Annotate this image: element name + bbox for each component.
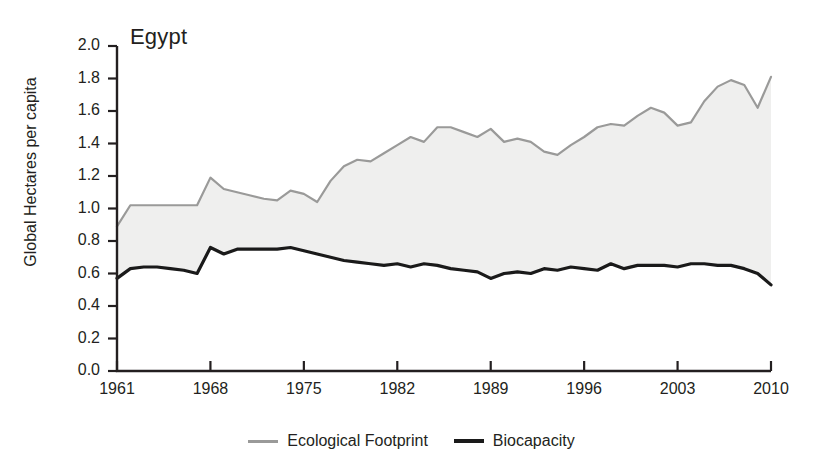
y-axis-tick-label: 1.8 <box>60 69 100 87</box>
x-axis-tick-label: 2003 <box>648 380 708 398</box>
y-axis-label-container: Global Hectares per capita <box>19 7 43 337</box>
y-axis-tick-label: 0.4 <box>60 296 100 314</box>
legend-label-ecological-footprint: Ecological Footprint <box>287 432 428 450</box>
y-axis-tick-label: 1.4 <box>60 134 100 152</box>
legend-label-biocapacity: Biocapacity <box>493 432 575 450</box>
plot-area <box>0 0 823 475</box>
x-axis-tick-label: 1982 <box>367 380 427 398</box>
x-axis-tick-label: 1968 <box>180 380 240 398</box>
x-axis-tick-label: 2010 <box>741 380 801 398</box>
y-axis-tick-label: 1.2 <box>60 166 100 184</box>
y-axis-tick-label: 0.6 <box>60 264 100 282</box>
chart-figure: Global Hectares per capita Egypt 0.00.20… <box>0 0 823 475</box>
chart-legend: Ecological Footprint Biocapacity <box>0 432 823 450</box>
y-axis-tick-label: 0.8 <box>60 231 100 249</box>
legend-line-icon-ecological-footprint <box>248 440 278 443</box>
x-axis-tick-label: 1961 <box>87 380 147 398</box>
y-axis-tick-label: 0.0 <box>60 361 100 379</box>
x-axis-tick-label: 1996 <box>554 380 614 398</box>
y-axis-label: Global Hectares per capita <box>22 77 40 266</box>
y-axis-tick-label: 1.0 <box>60 199 100 217</box>
legend-item-biocapacity: Biocapacity <box>454 432 575 450</box>
chart-title: Egypt <box>130 24 187 50</box>
y-axis-tick-label: 1.6 <box>60 101 100 119</box>
legend-item-ecological-footprint: Ecological Footprint <box>248 432 428 450</box>
x-axis-tick-label: 1989 <box>461 380 521 398</box>
y-axis-tick-label: 2.0 <box>60 36 100 54</box>
legend-line-icon-biocapacity <box>454 439 484 443</box>
x-axis-tick-label: 1975 <box>274 380 334 398</box>
y-axis-tick-label: 0.2 <box>60 329 100 347</box>
